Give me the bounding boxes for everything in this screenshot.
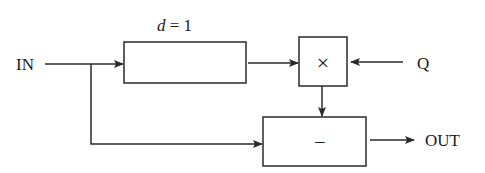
subtract-symbol: − <box>314 131 325 153</box>
delay-param-value: = 1 <box>166 16 193 35</box>
multiply-symbol: × <box>317 50 329 75</box>
input-label: IN <box>16 55 34 74</box>
arrow-in-to-subtract <box>91 64 262 144</box>
delay-block <box>124 42 246 83</box>
block-diagram: IN d = 1 × Q − OUT <box>0 0 485 173</box>
output-label: OUT <box>425 131 461 150</box>
delay-param-label: d = 1 <box>157 16 192 35</box>
q-label: Q <box>417 54 429 73</box>
